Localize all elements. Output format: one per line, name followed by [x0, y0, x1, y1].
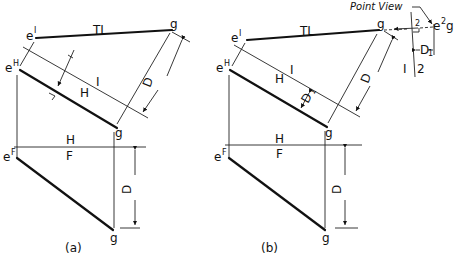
dim-ext-line [384, 31, 398, 40]
label-e: e [5, 61, 12, 75]
label-e-sup: I [239, 29, 241, 38]
label-e-sup: H [13, 59, 19, 68]
caption-b: (b) [261, 241, 278, 255]
dim-ext-line [172, 32, 190, 42]
label-fold-h: H [80, 86, 89, 100]
projector-arrow [394, 28, 418, 29]
label-e: e [26, 29, 33, 43]
label-fold-1: I [403, 62, 407, 76]
label-dim-d1-right-sub: 1 [428, 49, 433, 58]
label-fold-1: I [290, 63, 294, 77]
descriptive-geometry-diagram: e I e H e F g g g TL H I H F D D (a) [0, 0, 454, 258]
caption-a: (a) [65, 241, 82, 255]
label-right-angle-2: 2 [415, 19, 420, 28]
dim-line-d-aux-upper [167, 40, 182, 76]
right-angle-mark [49, 93, 55, 100]
label-e-sup: H [224, 59, 230, 68]
label-g: g [325, 126, 333, 140]
label-e-sup: I [34, 26, 36, 35]
projector-e [20, 42, 34, 66]
dim-line-d-aux-upper [378, 40, 392, 72]
label-g: g [170, 17, 178, 31]
projector-dashed [420, 27, 433, 28]
dim-line-d-aux-lower [143, 90, 158, 112]
top-view-line [20, 70, 117, 128]
label-fold-f: F [276, 147, 283, 161]
front-view-line [229, 158, 325, 230]
label-e-sup: F [222, 148, 227, 157]
label-fold-2: 2 [417, 62, 425, 76]
front-view-line [17, 158, 113, 230]
label-fold-h: H [275, 72, 284, 86]
figure-a: e I e H e F g g g TL H I H F D D (a) [3, 17, 190, 255]
label-point-view: Point View [350, 1, 403, 12]
label-dim-d: D [120, 185, 134, 194]
label-e-sup: F [11, 148, 16, 157]
label-dim-d: D [330, 185, 344, 194]
label-tl: TL [92, 23, 107, 37]
dim-line-d-aux-lower [356, 86, 370, 111]
label-fold-h: H [275, 132, 284, 146]
label-dim-d: D [358, 71, 374, 85]
label-fold-1: I [96, 75, 100, 89]
figure-b: e I e H e F g g g TL H I H F I 2 D D 1 D… [214, 1, 454, 255]
label-g: g [322, 231, 330, 245]
projector-e [232, 43, 245, 66]
label-e: e [216, 61, 223, 75]
label-dim-d: D [140, 75, 156, 89]
label-e2g-g: g [446, 19, 454, 33]
label-g: g [115, 126, 123, 140]
label-e: e [231, 31, 238, 45]
fold-line-h-1 [234, 45, 360, 117]
label-fold-f: F [66, 149, 73, 163]
label-e: e [214, 150, 221, 164]
label-e2g-e: e [433, 19, 440, 33]
label-g: g [110, 231, 118, 245]
label-g: g [377, 17, 385, 31]
label-e: e [3, 150, 10, 164]
label-tl: TL [299, 24, 314, 38]
label-fold-h: H [66, 133, 75, 147]
